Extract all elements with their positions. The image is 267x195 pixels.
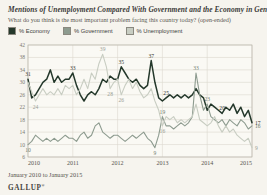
data-label: 33 — [193, 65, 199, 71]
data-label: 9 — [154, 150, 157, 156]
chart-title: Mentions of Unemployment Compared With G… — [8, 5, 263, 14]
x-tick-label: 2015 — [240, 160, 252, 166]
unemployment-swatch-icon — [126, 27, 134, 35]
economy-swatch-icon — [8, 27, 16, 35]
y-tick-label: 22 — [19, 104, 25, 110]
data-label: 31 — [25, 71, 31, 77]
legend-label-economy: % Economy — [19, 28, 50, 34]
x-tick-label: 2011 — [67, 160, 79, 166]
data-label: 19 — [160, 109, 166, 115]
y-tick-label: 14 — [19, 129, 25, 135]
x-tick-label: 2010 — [28, 160, 40, 166]
data-label: 33 — [70, 65, 76, 71]
data-label: 9 — [255, 145, 258, 151]
y-tick-label: 6 — [22, 154, 25, 160]
x-tick-label: 2013 — [156, 160, 168, 166]
data-label: 26 — [119, 97, 125, 103]
data-label: 39 — [100, 46, 106, 52]
x-tick-label: 2012 — [112, 160, 124, 166]
x-tick-label: 2014 — [201, 160, 213, 166]
data-label: 16 — [255, 123, 261, 129]
y-tick-label: 30 — [19, 79, 25, 85]
data-label: 16 — [160, 128, 166, 134]
data-label: 24 — [33, 104, 39, 110]
registered-mark: ® — [42, 183, 46, 188]
data-label: 20 — [219, 105, 225, 111]
data-label: 10 — [25, 147, 31, 153]
trend-line-chart: 4238343026221814106201020112012201320142… — [0, 37, 267, 170]
data-label: 28 — [107, 91, 113, 97]
legend-item-economy: % Economy — [8, 27, 50, 35]
gallup-logo: GALLUP® — [8, 183, 45, 192]
y-tick-label: 18 — [19, 117, 25, 123]
date-range-note: January 2010 to January 2015 — [8, 171, 82, 178]
data-label: 35 — [119, 59, 125, 65]
y-tick-label: 42 — [19, 42, 25, 48]
y-tick-label: 26 — [19, 92, 25, 98]
y-tick-label: 38 — [19, 54, 25, 60]
legend-item-government: % Government — [63, 27, 113, 35]
data-label: 25 — [163, 90, 169, 96]
legend-label-government: % Government — [74, 28, 113, 34]
legend-item-unemployment: % Unemployment — [126, 27, 183, 35]
chart-subtitle: What do you think is the most important … — [8, 16, 263, 23]
data-label: 37 — [148, 53, 154, 59]
plot-area — [28, 45, 252, 157]
government-swatch-icon — [63, 27, 71, 35]
legend-label-unemployment: % Unemployment — [137, 28, 183, 34]
gallup-chart-card: Mentions of Unemployment Compared With G… — [0, 0, 267, 195]
data-label: 23 — [204, 96, 210, 102]
chart-legend: % Economy % Government % Unemployment — [8, 26, 182, 35]
